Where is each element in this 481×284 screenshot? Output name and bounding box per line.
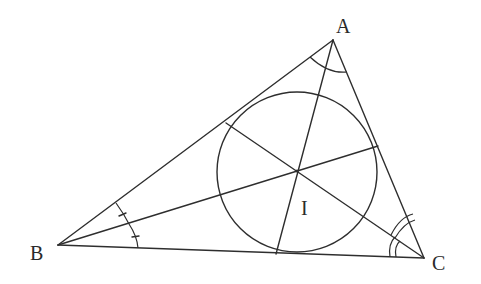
angle-c-arc-lower-outer — [390, 237, 395, 257]
side-ab — [58, 40, 333, 245]
label-b: B — [30, 242, 43, 264]
label-i: I — [301, 197, 308, 219]
bisector-a — [276, 40, 333, 254]
angle-b-tick-lower — [132, 236, 139, 237]
side-bc — [58, 245, 424, 258]
angle-b-arc-upper — [116, 203, 129, 224]
angle-bisectors — [58, 40, 424, 258]
incenter-point — [295, 169, 298, 172]
angle-c-arc-lower-inner — [396, 241, 401, 257]
label-a: A — [336, 15, 351, 37]
side-ca — [333, 40, 424, 258]
diagram-canvas: A B C I — [0, 0, 481, 284]
angle-c-marks — [390, 214, 415, 257]
triangle-incenter-diagram: A B C I — [0, 0, 481, 284]
label-c: C — [432, 252, 445, 274]
